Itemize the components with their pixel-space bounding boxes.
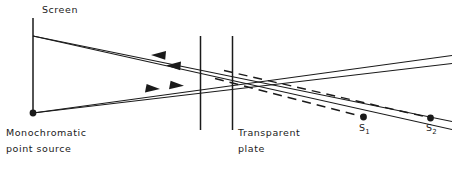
ray-upper-b <box>33 36 452 130</box>
arrowhead-lower-b-right <box>169 81 184 89</box>
arrowhead-upper-a-left <box>151 51 166 60</box>
virtual-source-s2-dot <box>427 115 434 122</box>
arrowhead-lower-a-right <box>145 84 160 92</box>
transparent-plate-label: Transparent plate <box>238 126 300 155</box>
screen-label-text: Screen <box>42 4 78 15</box>
transparent-plate-label-line1: Transparent <box>238 127 300 138</box>
arrowhead-upper-b-left <box>166 62 181 71</box>
virtual-ray-to-s2 <box>224 71 431 119</box>
ray-lower-b <box>33 64 452 114</box>
point-source-label-line1: Monochromatic <box>6 127 86 138</box>
point-source-dot <box>30 110 37 117</box>
virtual-source-s2-label: S2 <box>426 122 437 136</box>
point-source-label-line2: point source <box>6 142 86 155</box>
virtual-source-s2-subscript: 2 <box>432 128 436 136</box>
ray-lower-a <box>33 56 452 114</box>
virtual-source-s1-dot <box>360 114 367 121</box>
virtual-source-s1-label: S1 <box>359 122 370 136</box>
optics-diagram-figure: Screen Monochromatic point source Transp… <box>0 0 452 181</box>
screen-label: Screen <box>42 3 78 16</box>
transparent-plate-label-line2: plate <box>238 142 300 155</box>
point-source-label: Monochromatic point source <box>6 126 86 155</box>
virtual-source-s1-subscript: 1 <box>365 128 369 136</box>
